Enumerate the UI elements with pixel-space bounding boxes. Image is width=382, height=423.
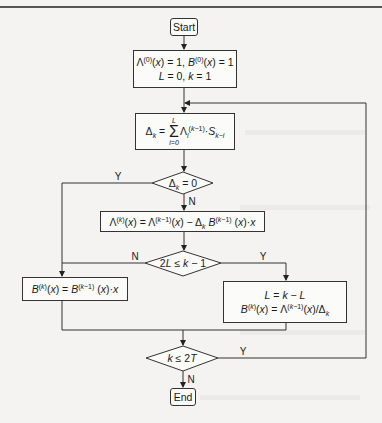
decision-k-label: k ≤ 2T <box>167 352 196 364</box>
start-terminal: Start <box>170 18 198 36</box>
shift-b-box: B(k)(x) = B(k−1) (x)·x <box>22 277 128 301</box>
decision-2L-label: 2L ≤ k − 1 <box>160 257 206 269</box>
edge-label-no: N <box>187 374 194 385</box>
update-L-line1: L = k − L <box>265 288 306 302</box>
update-b-line2: B(k)(x) = Λ(k−1)(x)/Δk <box>241 302 329 316</box>
edge-label-yes: Y <box>115 171 122 182</box>
shift-b-formula: B(k)(x) = B(k−1) (x)·x <box>32 282 119 296</box>
end-label: End <box>174 390 193 404</box>
edge-label-no: N <box>131 251 138 262</box>
update-L-b-box: L = k − L B(k)(x) = Λ(k−1)(x)/Δk <box>223 281 347 323</box>
start-label: Start <box>173 20 195 34</box>
update-lambda-formula: Λ(k)(x) = Λ(k−1)(x) − Δk B(k−1) (x)·x <box>109 215 255 229</box>
update-lambda-box: Λ(k)(x) = Λ(k−1)(x) − Δk B(k−1) (x)·x <box>100 211 265 232</box>
edge-label-no: N <box>188 196 195 207</box>
discrepancy-box: Δk = LΣi=0Λi(k−1)·Sk−i <box>135 113 235 150</box>
end-terminal: End <box>170 388 196 406</box>
init-box: Λ(0)(x) = 1, B(0)(x) = 1 L = 0, k = 1 <box>133 50 237 88</box>
decision-delta-zero-label: Δk = 0 <box>169 177 197 189</box>
init-line1: Λ(0)(x) = 1, B(0)(x) = 1 <box>136 55 233 69</box>
discrepancy-formula: Δk = LΣi=0Λi(k−1)·Sk−i <box>146 117 225 147</box>
edge-label-yes: Y <box>240 346 247 357</box>
edge-label-yes: Y <box>260 251 267 262</box>
init-line2: L = 0, k = 1 <box>159 69 212 83</box>
